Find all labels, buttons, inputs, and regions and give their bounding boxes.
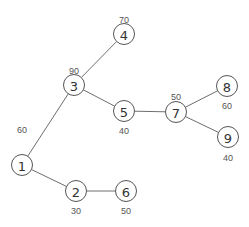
node-value: 40	[119, 126, 129, 136]
edge-1-2	[31, 170, 66, 187]
edge-1-3	[28, 94, 69, 156]
nodes: 123456789	[12, 24, 239, 202]
node-label: 2	[72, 185, 80, 200]
node-6: 6	[116, 181, 137, 202]
node-label: 4	[120, 28, 128, 43]
node-value: 90	[69, 66, 79, 76]
node-4: 4	[114, 24, 135, 45]
node-label: 1	[18, 159, 26, 174]
node-5: 5	[114, 101, 135, 122]
node-7: 7	[166, 102, 187, 123]
node-value: 60	[222, 101, 232, 111]
node-value: 50	[171, 92, 181, 102]
node-value: 30	[71, 206, 81, 216]
tree-diagram: 123456789 603090704050506040	[0, 0, 249, 227]
node-label: 9	[224, 131, 232, 146]
node-8: 8	[217, 76, 238, 97]
node-label: 7	[172, 106, 180, 121]
node-label: 5	[120, 105, 128, 120]
node-value: 70	[119, 15, 129, 25]
node-value: 60	[17, 125, 27, 135]
edge-7-9	[185, 117, 218, 133]
edge-3-4	[81, 41, 116, 77]
node-9: 9	[218, 127, 239, 148]
node-label: 6	[122, 185, 130, 200]
node-3: 3	[64, 75, 85, 96]
edge-3-5	[83, 90, 114, 106]
node-value: 40	[223, 153, 233, 163]
edge-7-8	[185, 91, 217, 107]
node-1: 1	[12, 155, 33, 176]
node-label: 3	[70, 79, 78, 94]
node-value: 50	[121, 206, 131, 216]
node-label: 8	[223, 80, 231, 95]
edge-5-7	[134, 111, 165, 112]
node-2: 2	[66, 181, 87, 202]
